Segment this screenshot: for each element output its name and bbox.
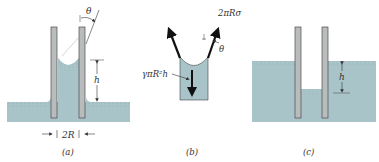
h-label-c: h <box>339 72 345 82</box>
h-label-a: h <box>94 75 100 85</box>
theta-label-a: θ <box>86 6 92 16</box>
surface-tension-arrow-right <box>208 32 217 58</box>
surface-tension-arrow-left <box>170 32 180 58</box>
tube-wall-right <box>79 27 85 118</box>
tube-wall-left <box>51 27 57 118</box>
tube-wall-left-c <box>295 27 301 118</box>
caption-a: (a) <box>62 147 74 157</box>
angle-arc <box>81 17 94 21</box>
surface-tension-label: 2πRσ <box>217 8 241 18</box>
theta-label-b: θ <box>219 44 224 54</box>
tube-wall-right-c <box>322 27 328 118</box>
caption-c: (c) <box>303 147 314 157</box>
diameter-label: 2R <box>61 130 75 140</box>
caption-b: (b) <box>186 147 198 157</box>
panel-a: θ h 2R (a) <box>7 6 130 157</box>
weight-label: γπR²h <box>142 69 168 79</box>
panel-c: h (c) <box>252 27 376 157</box>
panel-b: 2πRσ θ γπR²h (b) <box>142 8 241 157</box>
free-body-liquid-column <box>180 57 208 100</box>
capillary-diagram: θ h 2R (a) 2πRσ θ γπR²h (b) <box>0 0 379 162</box>
